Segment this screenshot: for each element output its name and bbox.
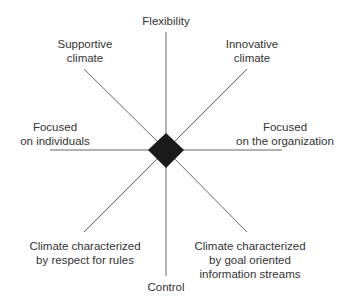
label-line: on the organization bbox=[226, 134, 344, 148]
diagonal-bottom-right bbox=[166, 150, 247, 232]
label-line: Focused bbox=[226, 120, 344, 134]
label-innovative-climate: Innovative climate bbox=[212, 37, 292, 65]
label-control: Control bbox=[136, 280, 196, 294]
label-line: Climate characterized bbox=[185, 239, 315, 253]
label-focused-organization: Focused on the organization bbox=[226, 120, 344, 148]
label-line: by respect for rules bbox=[20, 253, 150, 267]
label-flexibility: Flexibility bbox=[136, 14, 196, 28]
label-line: by goal oriented bbox=[185, 253, 315, 267]
label-line: information streams bbox=[185, 267, 315, 281]
label-line: Focused bbox=[0, 120, 110, 134]
label-supportive-climate: Supportive climate bbox=[45, 37, 125, 65]
label-focused-individuals: Focused on individuals bbox=[0, 120, 110, 148]
label-line: Innovative bbox=[212, 37, 292, 51]
label-goal-oriented: Climate characterized by goal oriented i… bbox=[185, 239, 315, 281]
label-line: climate bbox=[212, 51, 292, 65]
diagonal-bottom-left bbox=[84, 150, 166, 232]
label-line: climate bbox=[45, 51, 125, 65]
label-line: on individuals bbox=[0, 134, 110, 148]
label-respect-for-rules: Climate characterized by respect for rul… bbox=[20, 239, 150, 267]
label-line: Climate characterized bbox=[20, 239, 150, 253]
label-line: Supportive bbox=[45, 37, 125, 51]
